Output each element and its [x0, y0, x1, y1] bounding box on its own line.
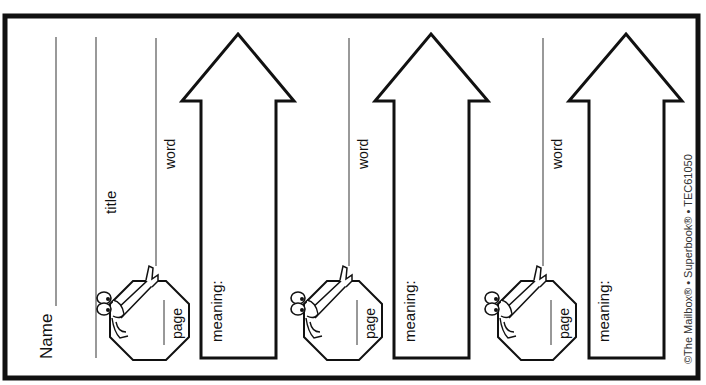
- word-label-1: word: [162, 139, 178, 169]
- name-label: Name: [37, 314, 57, 359]
- page-label-3: page: [556, 308, 572, 339]
- copyright-text: ©The Mailbox® • Superbook® • TEC61050: [682, 154, 694, 364]
- arrow-meaning-box: [569, 34, 682, 358]
- bookmark-2: [291, 34, 488, 360]
- arrow-meaning-box: [182, 34, 294, 358]
- bookmark-1: [97, 34, 294, 360]
- word-label-3: word: [549, 139, 565, 169]
- meaning-label-1: meaning:: [208, 280, 225, 342]
- bookmark-3: [485, 34, 682, 360]
- meaning-label-2: meaning:: [401, 280, 418, 342]
- arrow-meaning-box: [375, 34, 488, 358]
- title-label: title: [102, 191, 119, 214]
- meaning-label-3: meaning:: [595, 280, 612, 342]
- word-label-2: word: [355, 139, 371, 169]
- page-label-2: page: [362, 308, 378, 339]
- page-label-1: page: [169, 308, 185, 339]
